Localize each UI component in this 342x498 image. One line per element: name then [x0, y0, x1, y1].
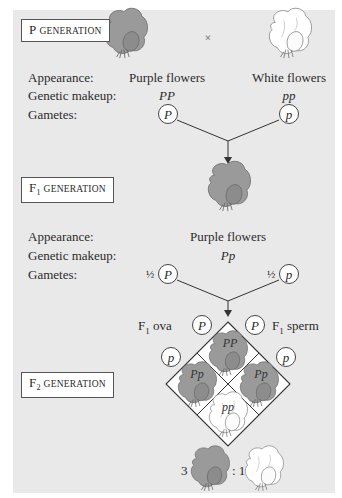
- cross-symbol: ×: [205, 31, 212, 46]
- f1-label-sub: 1: [36, 188, 40, 197]
- f1-genetic-makeup-label: Genetic makeup:: [28, 248, 116, 263]
- parent2-gamete: p: [279, 104, 299, 124]
- gametes-label: Gametes:: [28, 107, 77, 122]
- p-generation-label: P GENERATION: [21, 19, 110, 42]
- parent2-genotype: pp: [283, 88, 296, 103]
- ova-allele-2: p: [161, 347, 181, 367]
- ova-suffix: ova: [150, 318, 172, 333]
- f1-gamete1: P: [158, 264, 178, 284]
- white-flower-icon: [269, 8, 311, 58]
- parent1-appearance: Purple flowers: [129, 70, 205, 85]
- appearance-label: Appearance:: [28, 70, 94, 85]
- p-label-suffix: GENERATION: [39, 26, 101, 36]
- f1-purple-flower-icon: [208, 161, 250, 211]
- genetic-makeup-label: Genetic makeup:: [28, 88, 116, 103]
- f1-appearance: Purple flowers: [190, 229, 266, 244]
- cell-genotype-left: Pp: [190, 367, 203, 382]
- sperm-allele-1: P: [245, 315, 265, 335]
- f1-ova-label: F1 ova: [138, 318, 172, 339]
- sperm-allele-2: p: [276, 347, 296, 367]
- parent1-gamete: P: [158, 104, 178, 124]
- ratio-purple-count: 3: [181, 463, 188, 478]
- sperm-suffix: sperm: [284, 318, 319, 333]
- f1-gametes-label: Gametes:: [28, 267, 77, 282]
- f1-gamete2-fraction: ½: [267, 268, 275, 280]
- f1-appearance-label: Appearance:: [28, 229, 94, 244]
- ratio-purple-flower-icon: [191, 446, 229, 491]
- cell-genotype-bottom: pp: [222, 400, 234, 415]
- arrow-down-icon: [224, 310, 232, 317]
- p-label-prefix: P: [29, 22, 36, 37]
- ratio-white-count: : 1: [232, 463, 245, 478]
- cell-genotype-top: PP: [223, 336, 238, 351]
- f2-label-sub: 2: [36, 383, 40, 392]
- f1-sperm-label: F1 sperm: [272, 318, 319, 339]
- ova-allele-1: P: [192, 315, 212, 335]
- f1-genotype: Pp: [221, 248, 235, 263]
- f1-generation-label: F1 GENERATION: [21, 177, 114, 203]
- f2-label-suffix: GENERATION: [44, 379, 106, 389]
- f1-label-suffix: GENERATION: [44, 184, 106, 194]
- f1-gamete1-fraction: ½: [146, 268, 154, 280]
- purple-flower-icon: [105, 8, 147, 58]
- parent2-appearance: White flowers: [252, 70, 326, 85]
- f1-gamete2: p: [279, 264, 299, 284]
- f2-generation-label: F2 GENERATION: [21, 372, 114, 398]
- parent1-genotype: PP: [159, 88, 175, 103]
- ratio-white-flower-icon: [245, 446, 283, 491]
- cell-genotype-right: Pp: [254, 367, 267, 382]
